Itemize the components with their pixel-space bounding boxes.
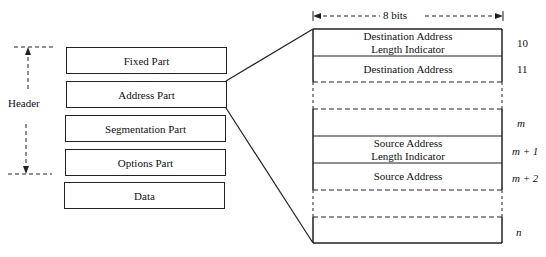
address-part-label: Address Part xyxy=(118,89,175,101)
segmentation-part-label: Segmentation Part xyxy=(105,123,186,135)
fixed-part-box: Fixed Part xyxy=(66,47,227,74)
octet-m: m xyxy=(517,117,525,129)
octet-n: n xyxy=(516,226,522,238)
src-addr-length-field: Source Address Length Indicator xyxy=(312,136,504,163)
src-addr-field: Source Address xyxy=(312,163,504,190)
segmentation-part-box: Segmentation Part xyxy=(65,115,226,142)
address-part-box: Address Part xyxy=(66,81,227,108)
octet-m2: m + 2 xyxy=(512,172,538,184)
dest-addr-field: Destination Address xyxy=(312,56,504,82)
options-part-label: Options Part xyxy=(118,157,173,169)
fixed-part-label: Fixed Part xyxy=(124,55,170,67)
options-part-box: Options Part xyxy=(65,149,226,176)
width-label: 8 bits xyxy=(383,9,407,21)
octet-m1: m + 1 xyxy=(512,145,538,157)
data-label: Data xyxy=(134,190,155,202)
octet-10: 10 xyxy=(517,37,528,49)
octet-11: 11 xyxy=(517,63,528,75)
dest-addr-length-field: Destination Address Length Indicator xyxy=(312,29,504,56)
data-box: Data xyxy=(64,182,225,209)
header-label: Header xyxy=(8,97,40,109)
